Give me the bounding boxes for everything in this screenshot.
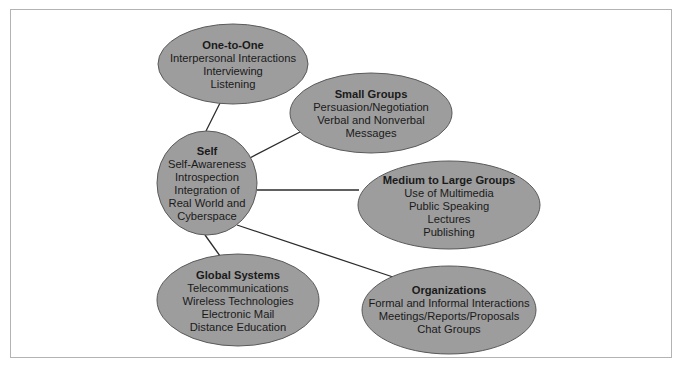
- node-item: Telecommunications: [182, 282, 293, 295]
- node-item: Integration of: [168, 184, 246, 197]
- node-item: Formal and Informal Interactions: [368, 297, 529, 310]
- node-item: Verbal and Nonverbal: [313, 114, 429, 127]
- node-item: Distance Education: [182, 321, 293, 334]
- node-small-groups: Small Groups Persuasion/Negotiation Verb…: [313, 88, 429, 140]
- node-item: Messages: [313, 127, 429, 140]
- node-self: Self Self-Awareness Introspection Integr…: [168, 145, 246, 223]
- edge-self-small-groups: [246, 132, 300, 160]
- node-item: Electronic Mail: [182, 308, 293, 321]
- diagram-canvas: [0, 0, 682, 368]
- node-one-to-one: One-to-One Interpersonal Interactions In…: [170, 39, 296, 91]
- edge-self-global-systems: [205, 235, 220, 256]
- node-item: Wireless Technologies: [182, 295, 293, 308]
- node-title: Self: [168, 145, 246, 158]
- node-item: Use of Multimedia: [383, 187, 515, 200]
- node-title: Medium to Large Groups: [383, 174, 515, 187]
- node-item: Self-Awareness: [168, 158, 246, 171]
- node-title: Small Groups: [313, 88, 429, 101]
- node-title: One-to-One: [170, 39, 296, 52]
- node-item: Publishing: [383, 226, 515, 239]
- node-item: Listening: [170, 78, 296, 91]
- edge-self-one-to-one: [206, 103, 220, 131]
- node-organizations: Organizations Formal and Informal Intera…: [368, 284, 529, 336]
- node-item: Real World and: [168, 197, 246, 210]
- node-item: Interviewing: [170, 65, 296, 78]
- node-title: Organizations: [368, 284, 529, 297]
- node-item: Cyberspace: [168, 210, 246, 223]
- node-global-systems: Global Systems Telecommunications Wirele…: [182, 269, 293, 334]
- node-title: Global Systems: [182, 269, 293, 282]
- node-item: Interpersonal Interactions: [170, 52, 296, 65]
- node-item: Persuasion/Negotiation: [313, 101, 429, 114]
- node-item: Public Speaking: [383, 200, 515, 213]
- node-item: Chat Groups: [368, 323, 529, 336]
- node-item: Introspection: [168, 171, 246, 184]
- node-item: Meetings/Reports/Proposals: [368, 310, 529, 323]
- node-medium-to-large-groups: Medium to Large Groups Use of Multimedia…: [383, 174, 515, 239]
- node-item: Lectures: [383, 213, 515, 226]
